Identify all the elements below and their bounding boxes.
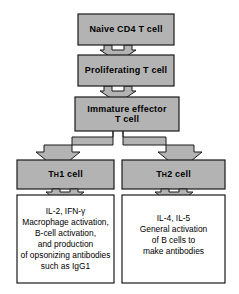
- box-th2-outcome: [122, 195, 225, 283]
- flowchart-svg: [0, 0, 239, 294]
- box-proliferating-t-cell: [78, 55, 174, 86]
- box-th2-cell: [122, 160, 225, 189]
- box-th1-outcome: [17, 195, 114, 283]
- box-immature-effector-t-cell: [75, 97, 179, 131]
- box-th1-cell: [17, 160, 114, 189]
- flowchart-diagram: Naive CD4 T cell Proliferating T cell Im…: [0, 0, 239, 294]
- box-naive-cd4-t-cell: [78, 14, 174, 45]
